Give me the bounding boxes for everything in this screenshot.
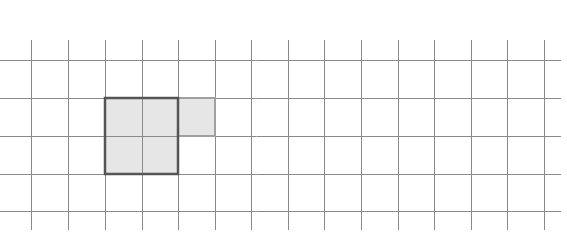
shaded-cell [142,136,178,174]
shaded-cell [178,98,215,136]
grid-lines [0,40,561,230]
shaded-cell [142,98,178,136]
grid-diagram [0,0,567,249]
shaded-cell [105,136,142,174]
shaded-cell [105,98,142,136]
